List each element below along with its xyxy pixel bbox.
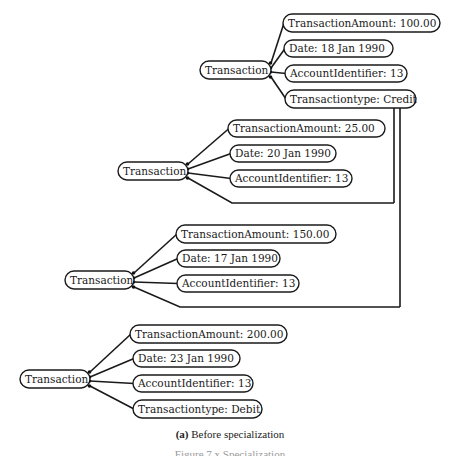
edge-tree-1-3	[271, 77, 286, 99]
node-tree-3-child-2: AccountIdentifier: 13	[177, 275, 299, 292]
node-tree-3-parent-label: Transaction	[70, 274, 133, 286]
node-tree-4-parent: Transaction	[20, 370, 90, 388]
edge-tree-3-1	[134, 259, 178, 279]
node-tree-1-child-3: Transactiontype: Credit	[285, 90, 418, 108]
node-tree-2-parent-label: Transaction	[123, 165, 186, 177]
node-tree-4-child-2: AccountIdentifier: 13	[133, 375, 253, 392]
edge-tree-4-1	[90, 359, 134, 378]
node-tree-3-child-2-label: AccountIdentifier: 13	[181, 277, 295, 289]
node-tree-1-child-3-label: Transactiontype: Credit	[290, 93, 418, 105]
node-tree-4-child-1: Date: 23 Jan 1990	[133, 350, 240, 367]
node-tree-3-child-1-label: Date: 17 Jan 1990	[182, 252, 278, 264]
node-tree-4-child-0: TransactionAmount: 200.00	[130, 325, 287, 343]
node-tree-4-child-1-label: Date: 23 Jan 1990	[138, 352, 234, 364]
node-tree-4-child-3: Transactiontype: Debit	[133, 400, 262, 418]
node-tree-3-child-0: TransactionAmount: 150.00	[176, 225, 336, 243]
edge-tree-4-2	[90, 381, 134, 384]
node-tree-4-child-3-label: Transactiontype: Debit	[138, 403, 261, 415]
node-tree-3-parent: Transaction	[65, 271, 134, 289]
edge-tree-1-2	[271, 72, 286, 74]
diagram-canvas: TransactionTransactionAmount: 100.00Date…	[0, 0, 460, 456]
subfigure-text: Before specialization	[191, 428, 284, 440]
nodes-layer: TransactionTransactionAmount: 100.00Date…	[20, 14, 440, 418]
node-tree-2-child-0: TransactionAmount: 25.00	[228, 120, 385, 137]
node-tree-2-child-2-label: AccountIdentifier: 13	[234, 172, 348, 184]
edge-tree-2-0	[188, 129, 229, 165]
subfigure-label: (a)	[176, 428, 189, 440]
node-tree-2-child-1: Date: 20 Jan 1990	[230, 145, 336, 162]
node-tree-1-child-0: TransactionAmount: 100.00	[283, 14, 440, 32]
edge-tree-3-2	[134, 282, 178, 284]
node-tree-4-child-0-label: TransactionAmount: 200.00	[135, 328, 283, 340]
node-tree-3-child-0-label: TransactionAmount: 150.00	[181, 228, 329, 240]
edge-tree-4-0	[90, 334, 131, 372]
node-tree-2-child-1-label: Date: 20 Jan 1990	[235, 147, 331, 159]
edge-tree-2-2	[188, 173, 231, 179]
edge-tree-3-0	[134, 234, 177, 273]
edge-tree-4-3	[90, 386, 134, 409]
subfigure-caption: (a) Before specialization	[0, 428, 460, 440]
edge-tree-1-0	[271, 23, 284, 63]
node-tree-1-child-2-label: AccountIdentifier: 13	[289, 67, 403, 79]
node-tree-1-parent-label: Transaction	[205, 64, 268, 76]
node-tree-4-parent-label: Transaction	[25, 373, 88, 385]
node-tree-1-child-2: AccountIdentifier: 13	[285, 65, 407, 82]
node-tree-2-child-2: AccountIdentifier: 13	[230, 170, 352, 187]
node-tree-1-parent: Transaction	[200, 61, 271, 79]
edge-tree-2-1	[188, 154, 231, 170]
node-tree-1-child-0-label: TransactionAmount: 100.00	[288, 17, 436, 29]
node-tree-1-child-1-label: Date: 18 Jan 1990	[289, 42, 385, 54]
node-tree-1-child-1: Date: 18 Jan 1990	[284, 40, 393, 57]
node-tree-3-child-1: Date: 17 Jan 1990	[177, 250, 280, 267]
figure-caption: Figure 7.x Specialization	[0, 447, 460, 456]
node-tree-2-child-0-label: TransactionAmount: 25.00	[233, 122, 375, 134]
node-tree-2-parent: Transaction	[118, 162, 188, 180]
node-tree-4-child-2-label: AccountIdentifier: 13	[137, 377, 251, 389]
